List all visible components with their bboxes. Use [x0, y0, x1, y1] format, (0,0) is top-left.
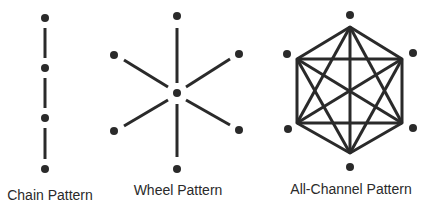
chain-pattern-graph — [41, 14, 49, 173]
all-channel-pattern-label: All-Channel Pattern — [290, 181, 411, 197]
wheel-pattern-label: Wheel Pattern — [134, 182, 223, 198]
wheel-pattern-graph — [110, 12, 243, 173]
chain-pattern-label: Chain Pattern — [7, 187, 93, 203]
all-channel-pattern-graph — [297, 27, 402, 153]
